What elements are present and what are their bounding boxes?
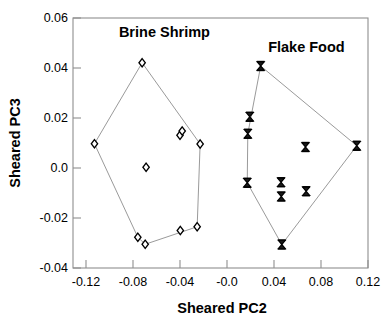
y-tick-label-2: 0.02 bbox=[44, 111, 68, 125]
y-tick-label-4: -0.02 bbox=[40, 211, 69, 225]
group-label-brine-shrimp: Brine Shrimp bbox=[119, 24, 210, 40]
x-tick-label-1: -0.08 bbox=[119, 275, 148, 289]
x-tick-label-5: 0.08 bbox=[309, 275, 333, 289]
convex-hull-flake-food bbox=[247, 66, 357, 245]
series-flake-food bbox=[243, 62, 360, 250]
data-point bbox=[142, 240, 148, 248]
plot-canvas: 0.06 0.04 0.02 0.0 -0.02 -0.04 -0.12 -0.… bbox=[0, 0, 392, 329]
x-tick-label-4: 0.04 bbox=[262, 275, 286, 289]
x-tick-label-0: -0.12 bbox=[72, 275, 101, 289]
data-point bbox=[244, 129, 252, 138]
data-point bbox=[302, 187, 310, 196]
data-point bbox=[194, 223, 200, 231]
data-point bbox=[257, 62, 265, 71]
data-point bbox=[243, 178, 251, 187]
y-tick-label-5: -0.04 bbox=[40, 261, 69, 275]
y-axis-title: Sheared PC3 bbox=[7, 98, 23, 187]
group-label-flake-food: Flake Food bbox=[268, 39, 345, 55]
data-point bbox=[353, 141, 361, 150]
x-axis-ticks bbox=[86, 260, 368, 268]
data-series-layer bbox=[91, 59, 360, 249]
y-tick-label-0: 0.06 bbox=[44, 11, 68, 25]
data-point bbox=[277, 178, 285, 187]
series-brine-shrimp bbox=[91, 59, 203, 249]
annotation-layer: Brine ShrimpFlake Food bbox=[119, 24, 345, 55]
data-point bbox=[278, 240, 286, 249]
x-tick-label-6: 0.12 bbox=[356, 275, 380, 289]
plot-frame bbox=[73, 18, 368, 268]
y-tick-label-1: 0.04 bbox=[44, 61, 68, 75]
scatter-plot-figure: 0.06 0.04 0.02 0.0 -0.02 -0.04 -0.12 -0.… bbox=[0, 0, 392, 329]
data-point bbox=[302, 143, 310, 152]
convex-hull-brine-shrimp bbox=[94, 63, 200, 245]
y-tick-label-3: 0.0 bbox=[51, 161, 68, 175]
data-point bbox=[143, 163, 149, 171]
data-point bbox=[135, 233, 141, 241]
data-point bbox=[246, 112, 254, 121]
data-point bbox=[277, 192, 285, 201]
x-tick-label-3: -0.0 bbox=[216, 275, 238, 289]
x-axis-title: Sheared PC2 bbox=[177, 300, 266, 316]
x-tick-label-2: -0.04 bbox=[166, 275, 195, 289]
y-axis-ticks bbox=[73, 18, 81, 268]
